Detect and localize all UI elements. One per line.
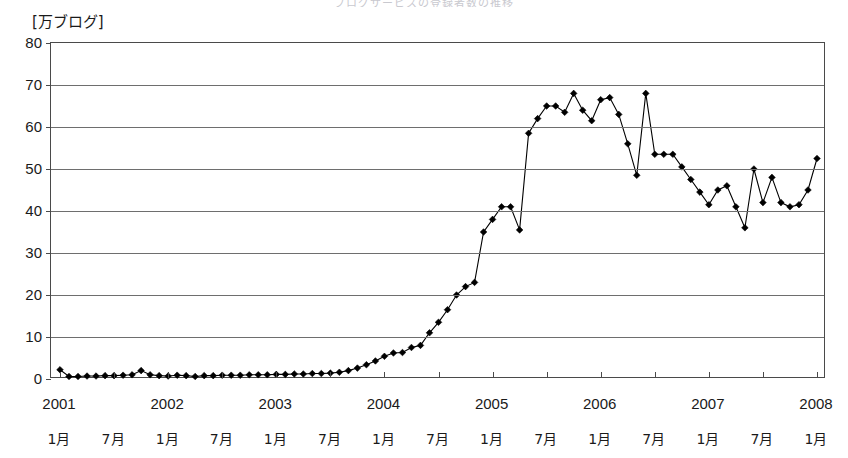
- y-axis-tick-label: 40: [12, 202, 42, 219]
- y-axis-tick-label: 80: [12, 34, 42, 51]
- cut-off-title: ブログサービスの登録者数の推移: [0, 0, 848, 7]
- y-axis-tick: [46, 253, 51, 254]
- y-axis-unit-label: [万ブログ]: [32, 10, 104, 31]
- x-axis-month-label: 7月: [318, 428, 341, 448]
- data-point-marker: [210, 372, 217, 379]
- data-point-marker: [138, 367, 145, 374]
- y-axis-tick: [46, 43, 51, 44]
- y-axis-tick: [46, 295, 51, 296]
- x-axis-year-label: 2005: [475, 395, 508, 412]
- data-point-marker: [399, 349, 406, 356]
- y-axis-tick: [46, 85, 51, 86]
- data-point-marker: [805, 187, 812, 194]
- x-axis-month-label: 1月: [805, 428, 828, 448]
- x-axis-tick: [439, 372, 440, 378]
- x-axis-year-label: 2007: [691, 395, 724, 412]
- x-axis-month-label: 1月: [480, 428, 503, 448]
- data-point-marker: [237, 372, 244, 379]
- data-point-marker: [525, 130, 532, 137]
- data-point-marker: [255, 372, 262, 379]
- x-axis-year-label: 2001: [42, 395, 75, 412]
- data-point-marker: [381, 353, 388, 360]
- x-axis-tick: [817, 372, 818, 378]
- x-axis-tick: [330, 372, 331, 378]
- x-axis-tick: [222, 372, 223, 378]
- data-point-marker: [471, 279, 478, 286]
- data-point-marker: [183, 372, 190, 379]
- data-point-marker: [570, 90, 577, 97]
- gridline: [51, 295, 824, 296]
- x-axis-month-label: 1月: [696, 428, 719, 448]
- data-point-marker: [552, 103, 559, 110]
- data-point-marker: [102, 372, 109, 379]
- data-point-marker: [309, 370, 316, 377]
- data-point-marker: [282, 371, 289, 378]
- data-point-marker: [814, 155, 821, 162]
- data-point-marker: [201, 372, 208, 379]
- x-axis-month-label: 7月: [534, 428, 557, 448]
- y-axis-tick-label: 10: [12, 328, 42, 345]
- gridline: [51, 169, 824, 170]
- data-point-marker: [660, 151, 667, 158]
- gridline: [51, 127, 824, 128]
- data-point-marker: [796, 201, 803, 208]
- gridline: [51, 211, 824, 212]
- chart-page: ブログサービスの登録者数の推移 [万ブログ] 01020304050607080…: [0, 0, 848, 458]
- data-point-marker: [372, 358, 379, 365]
- x-axis-tick: [114, 372, 115, 378]
- data-point-marker: [642, 90, 649, 97]
- x-axis-month-label: 1月: [372, 428, 395, 448]
- x-axis-tick: [168, 372, 169, 378]
- y-axis-tick: [46, 337, 51, 338]
- data-point-marker: [264, 372, 271, 379]
- x-axis-month-label: 7月: [210, 428, 233, 448]
- y-axis-tick: [46, 127, 51, 128]
- x-axis-month-label: 7月: [102, 428, 125, 448]
- series-path: [60, 93, 817, 376]
- gridline: [51, 85, 824, 86]
- x-axis-tick: [276, 372, 277, 378]
- data-point-marker: [624, 141, 631, 148]
- gridline: [51, 337, 824, 338]
- y-axis-tick-label: 50: [12, 160, 42, 177]
- y-axis-tick: [46, 211, 51, 212]
- data-point-marker: [318, 370, 325, 377]
- data-point-marker: [769, 174, 776, 181]
- x-axis-month-label: 1月: [264, 428, 287, 448]
- x-axis-year-label: 2008: [799, 395, 832, 412]
- data-point-marker: [300, 371, 307, 378]
- data-point-marker: [597, 96, 604, 103]
- data-point-marker: [715, 187, 722, 194]
- data-point-marker: [516, 227, 523, 234]
- data-point-marker: [147, 372, 154, 379]
- x-axis-month-label: 1月: [588, 428, 611, 448]
- data-point-marker: [733, 204, 740, 211]
- data-point-marker: [651, 151, 658, 158]
- y-axis-tick-label: 0: [12, 370, 42, 387]
- x-axis-year-label: 2004: [367, 395, 400, 412]
- data-point-marker: [742, 225, 749, 232]
- plot-area: [50, 42, 825, 378]
- data-point-marker: [561, 109, 568, 116]
- x-axis-tick: [709, 372, 710, 378]
- data-point-marker: [606, 94, 613, 101]
- data-point-marker: [724, 183, 731, 190]
- y-axis-tick-label: 30: [12, 244, 42, 261]
- x-axis-month-label: 7月: [750, 428, 773, 448]
- data-point-marker: [120, 372, 127, 379]
- data-point-marker: [174, 372, 181, 379]
- y-axis-tick: [46, 169, 51, 170]
- data-point-marker: [787, 204, 794, 211]
- y-axis-tick-label: 20: [12, 286, 42, 303]
- x-axis-tick: [601, 372, 602, 378]
- x-axis-tick: [384, 372, 385, 378]
- x-axis-year-label: 2002: [150, 395, 183, 412]
- data-point-marker: [778, 199, 785, 206]
- x-axis-year-label: 2003: [259, 395, 292, 412]
- data-point-marker: [354, 365, 361, 372]
- x-axis-month-label: 7月: [642, 428, 665, 448]
- data-point-marker: [246, 372, 253, 379]
- x-axis-month-label: 1月: [48, 428, 71, 448]
- x-axis-tick: [763, 372, 764, 378]
- gridline: [51, 253, 824, 254]
